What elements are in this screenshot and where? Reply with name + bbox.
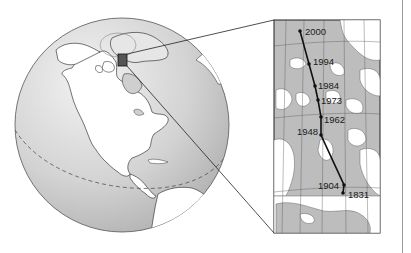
inset-location-box (118, 54, 127, 66)
year-label-1904: 1904 (318, 180, 339, 191)
year-label-1984: 1984 (318, 80, 339, 91)
dot-1962 (319, 115, 323, 119)
dot-1973 (316, 98, 320, 102)
inset-map: 2000 1994 1984 1973 1962 1948 1904 1831 (274, 20, 380, 233)
year-label-1948: 1948 (297, 126, 318, 137)
globe (15, 18, 230, 240)
year-label-1962: 1962 (324, 114, 345, 125)
page-divider-line (402, 0, 403, 253)
dot-2000 (298, 29, 302, 33)
year-label-1831: 1831 (348, 189, 369, 200)
dot-1984 (313, 84, 317, 88)
dot-1948 (319, 133, 323, 137)
year-label-1994: 1994 (313, 56, 334, 67)
magnetic-pole-drift-figure: 2000 1994 1984 1973 1962 1948 1904 1831 (0, 0, 411, 253)
year-label-1973: 1973 (321, 95, 342, 106)
dot-1994 (307, 62, 311, 66)
south-america-land (150, 187, 216, 240)
dot-1904 (342, 183, 346, 187)
dot-1831 (341, 191, 345, 195)
year-label-2000: 2000 (305, 26, 326, 37)
